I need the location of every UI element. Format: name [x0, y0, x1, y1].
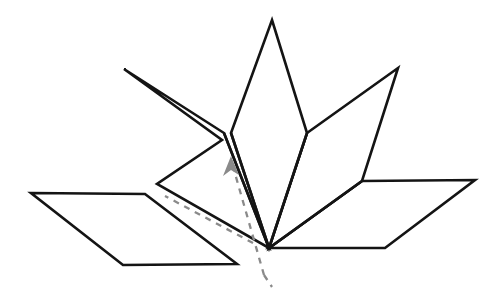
petal-fan-diagram	[0, 0, 496, 293]
figure-root	[0, 0, 496, 293]
